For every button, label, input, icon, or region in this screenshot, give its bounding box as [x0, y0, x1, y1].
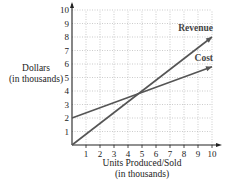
- x-axis-label: Units Produced/Sold (in thousands): [72, 158, 212, 180]
- y-tick-label: 8: [65, 32, 70, 42]
- x-axis-subtitle: (in thousands): [72, 169, 212, 180]
- label-revenue: Revenue: [178, 23, 213, 33]
- y-tick-label: 9: [65, 19, 70, 29]
- y-tick-label: 10: [60, 5, 70, 15]
- y-axis-subtitle: (in thousands): [0, 74, 72, 85]
- y-tick-label: 1: [65, 127, 70, 137]
- series-labels: RevenueCost: [178, 23, 214, 63]
- y-axis-arrow-icon: [70, 2, 74, 8]
- y-axis-label: Dollars (in thousands): [0, 63, 72, 85]
- y-tick-label: 2: [65, 113, 70, 123]
- arrowhead-icon: [205, 66, 212, 71]
- x-axis-title: Units Produced/Sold: [72, 158, 212, 169]
- y-tick-label: 3: [65, 100, 70, 110]
- y-axis-title: Dollars: [0, 63, 72, 74]
- x-axis-arrow-icon: [216, 143, 222, 147]
- y-tick-label: 4: [65, 86, 70, 96]
- y-tick-label: 7: [65, 46, 70, 56]
- label-cost: Cost: [195, 53, 214, 63]
